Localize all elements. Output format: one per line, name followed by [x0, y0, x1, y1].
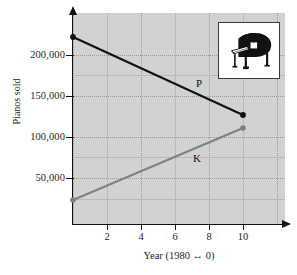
x-tick-mark	[209, 224, 210, 230]
gridline-vertical	[107, 13, 108, 224]
x-tick-mark	[175, 224, 176, 230]
gridline-horizontal-minor	[73, 199, 285, 200]
y-tick-mark	[66, 96, 74, 97]
x-axis-arrow-icon	[282, 220, 291, 228]
x-tick-label: 2	[94, 231, 120, 242]
y-tick-label: 200,000	[30, 49, 65, 60]
y-tick-mark	[66, 55, 74, 56]
y-tick-mark	[66, 137, 74, 138]
gridline-horizontal	[73, 96, 285, 97]
y-axis-line	[72, 12, 73, 225]
x-axis-line	[72, 224, 284, 225]
x-tick-label: 10	[230, 231, 256, 242]
x-tick-label: 8	[196, 231, 222, 242]
gridline-vertical	[175, 13, 176, 224]
x-tick-label: 4	[128, 231, 154, 242]
y-axis-title: Pianos sold	[11, 56, 22, 148]
chart-figure: 200,000 150,000 100,000 50,000 2 4 6 8 1…	[0, 0, 297, 275]
series-label-p: P	[196, 77, 202, 89]
x-tick-label: 6	[162, 231, 188, 242]
y-tick-mark	[66, 178, 74, 179]
y-tick-label: 100,000	[30, 131, 65, 142]
y-tick-label: 150,000	[30, 90, 65, 101]
gridline-horizontal	[73, 137, 285, 138]
x-tick-mark	[243, 224, 244, 230]
gridline-vertical-dotted	[209, 13, 210, 224]
x-tick-mark	[141, 224, 142, 230]
piano-inset-box	[218, 22, 280, 79]
series-label-k: K	[193, 152, 201, 164]
y-tick-label: 50,000	[36, 172, 65, 183]
gridline-horizontal	[73, 178, 285, 179]
x-tick-mark	[107, 224, 108, 230]
grand-piano-icon	[222, 26, 276, 75]
y-axis-arrow-icon	[69, 6, 77, 15]
x-axis-title: Year (1980 ↔ 0)	[73, 250, 285, 261]
gridline-horizontal-minor	[73, 157, 285, 158]
gridline-vertical-dotted	[141, 13, 142, 224]
